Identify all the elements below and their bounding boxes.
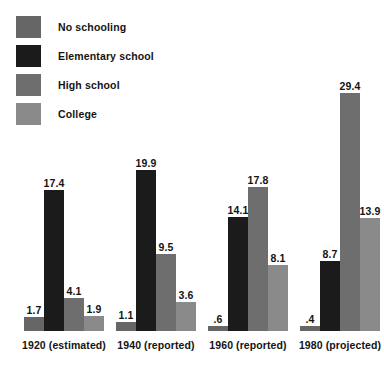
bar bbox=[268, 265, 288, 331]
bar bbox=[116, 322, 136, 331]
bar bbox=[208, 326, 228, 331]
bar-value-label: 9.5 bbox=[149, 241, 183, 253]
bar bbox=[24, 317, 44, 331]
bar-value-label: 17.8 bbox=[241, 174, 275, 186]
bar bbox=[300, 326, 320, 331]
x-tick-label: 1980 (projected) bbox=[282, 339, 384, 351]
bar-value-label: 4.1 bbox=[57, 285, 91, 297]
bar bbox=[320, 261, 340, 331]
bar-value-label: 29.4 bbox=[333, 80, 367, 92]
x-axis: 1920 (estimated)1940 (reported)1960 (rep… bbox=[0, 339, 384, 355]
bar bbox=[360, 218, 380, 331]
bar-value-label: 13.9 bbox=[353, 205, 384, 217]
bar-value-label: 3.6 bbox=[169, 289, 203, 301]
bar-value-label: 19.9 bbox=[129, 157, 163, 169]
bar bbox=[176, 302, 196, 331]
bar bbox=[44, 190, 64, 331]
bar bbox=[228, 217, 248, 331]
bar-value-label: 1.9 bbox=[77, 303, 111, 315]
bar-chart-figure: No schooling Elementary school High scho… bbox=[0, 0, 384, 371]
bar-value-label: 8.1 bbox=[261, 252, 295, 264]
plot-area: 1.717.44.11.91.119.99.53.6.614.117.88.1.… bbox=[0, 0, 384, 371]
bar bbox=[84, 316, 104, 331]
bar-value-label: 17.4 bbox=[37, 177, 71, 189]
